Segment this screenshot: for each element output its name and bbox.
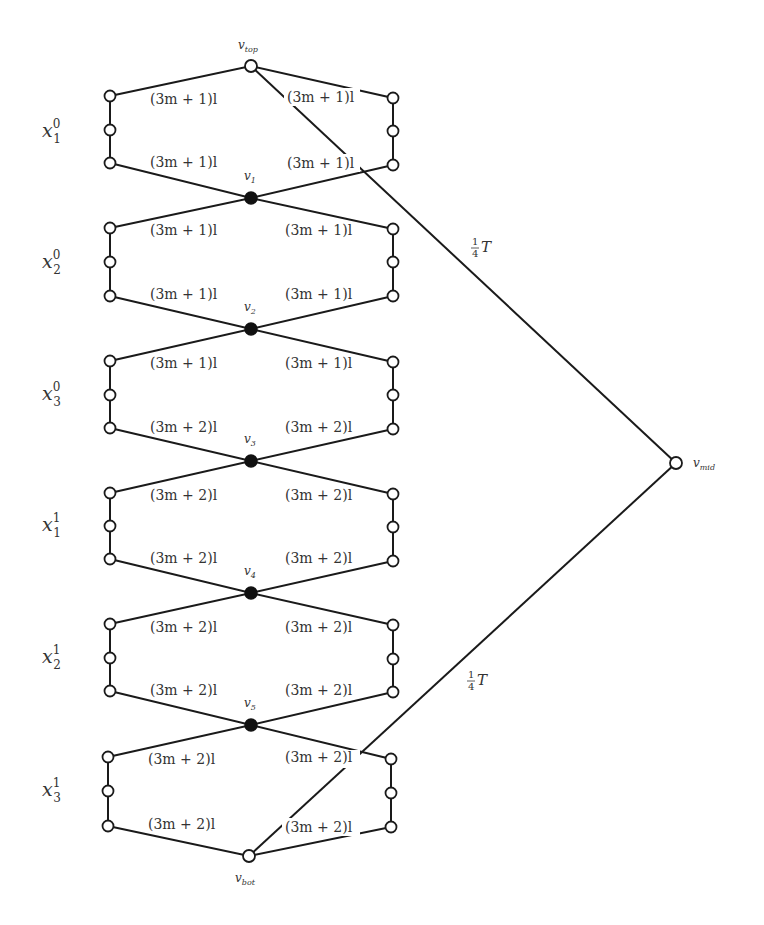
vertex-vtop [245, 60, 257, 72]
gadget-graph-diagram: vtop v1 v2 v3 v4 v5 vbot vmid x01 x02 x0… [0, 0, 764, 925]
svg-text:(3m + 2)l: (3m + 2)l [148, 816, 216, 832]
vertex-v1 [245, 192, 257, 204]
vertex-v5 [245, 719, 257, 731]
svg-text:(3m + 2)l: (3m + 2)l [150, 487, 218, 503]
svg-text:(3m + 2)l: (3m + 2)l [150, 619, 218, 635]
gadget-label-x3-0: x03 [42, 380, 61, 409]
svg-text:(3m + 2)l: (3m + 2)l [285, 819, 353, 835]
svg-text:(3m + 1)l: (3m + 1)l [285, 286, 353, 302]
svg-text:(3m + 2)l: (3m + 2)l [285, 749, 353, 765]
gadget-label-x2-1: x12 [42, 643, 61, 672]
svg-text:4: 4 [468, 681, 474, 692]
long-edge-weight-top: 1 4 T [471, 236, 492, 259]
vertex-label-v1: v1 [244, 169, 256, 185]
gadget-label-x2-0: x02 [42, 248, 61, 277]
svg-text:(3m + 1)l: (3m + 1)l [287, 155, 355, 171]
vertex-v4 [245, 587, 257, 599]
svg-text:(3m + 1)l: (3m + 1)l [150, 91, 218, 107]
svg-text:(3m + 2)l: (3m + 2)l [150, 419, 218, 435]
svg-text:(3m + 2)l: (3m + 2)l [285, 419, 353, 435]
gadget-label-x3-1: x13 [42, 776, 61, 805]
svg-text:4: 4 [472, 248, 478, 259]
long-edge-weight-bottom: 1 4 T [467, 669, 488, 692]
vertex-label-v4: v4 [244, 564, 256, 580]
vertex-label-v3: v3 [244, 432, 256, 448]
gadget-label-x1-1: x11 [42, 511, 61, 540]
vertex-v2 [245, 323, 257, 335]
vertex-label-v2: v2 [244, 300, 256, 316]
svg-text:(3m + 2)l: (3m + 2)l [285, 550, 353, 566]
svg-text:T: T [477, 671, 488, 689]
svg-text:(3m + 2)l: (3m + 2)l [285, 682, 353, 698]
vertex-label-v5: v5 [244, 696, 256, 712]
svg-text:(3m + 1)l: (3m + 1)l [150, 222, 218, 238]
svg-text:(3m + 1)l: (3m + 1)l [150, 286, 218, 302]
svg-text:1: 1 [468, 669, 474, 680]
gadget-x3-1 [108, 725, 391, 856]
svg-text:(3m + 1)l: (3m + 1)l [150, 154, 218, 170]
vertex-label-vtop: vtop [238, 38, 258, 54]
vertex-v3 [245, 455, 257, 467]
svg-text:T: T [481, 238, 492, 256]
edge-vtop-vmid [251, 66, 676, 463]
gadget-label-x1-0: x01 [42, 117, 61, 146]
svg-text:(3m + 2)l: (3m + 2)l [150, 550, 218, 566]
svg-text:(3m + 1)l: (3m + 1)l [285, 222, 353, 238]
vertex-vbot [243, 850, 255, 862]
svg-text:(3m + 2)l: (3m + 2)l [285, 619, 353, 635]
svg-text:(3m + 1)l: (3m + 1)l [285, 355, 353, 371]
svg-text:(3m + 2)l: (3m + 2)l [148, 751, 216, 767]
vertex-label-vmid: vmid [693, 456, 715, 472]
edge-vbot-vmid [249, 463, 676, 856]
svg-text:(3m + 1)l: (3m + 1)l [287, 89, 355, 105]
svg-text:(3m + 2)l: (3m + 2)l [285, 487, 353, 503]
svg-text:(3m + 1)l: (3m + 1)l [150, 355, 218, 371]
svg-text:1: 1 [472, 236, 478, 247]
svg-text:(3m + 2)l: (3m + 2)l [150, 682, 218, 698]
vertex-vmid [670, 457, 682, 469]
vertex-label-vbot: vbot [235, 871, 256, 887]
